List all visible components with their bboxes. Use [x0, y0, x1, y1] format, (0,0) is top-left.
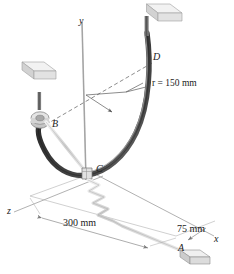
collar-b — [31, 112, 49, 128]
mechanics-figure: y x z B C D A r = 150 mm 300 mm 75 mm — [0, 0, 234, 274]
spring-ca — [88, 180, 180, 250]
radius-arrows — [86, 83, 143, 112]
x-axis-label: x — [214, 234, 218, 244]
point-c-label: C — [96, 164, 103, 174]
support-post-b — [38, 92, 42, 110]
ring-c — [82, 168, 92, 179]
point-d-label: D — [153, 52, 160, 62]
support-block-d — [147, 4, 183, 21]
support-block-b — [22, 62, 56, 79]
dimension-75-label: 75 mm — [177, 224, 205, 234]
radius-dimension-label: r = 150 mm — [152, 79, 197, 89]
support-post-d — [145, 16, 149, 36]
point-b-label: B — [52, 119, 58, 129]
dimension-300-label: 300 mm — [63, 218, 96, 228]
z-axis-label: z — [7, 206, 11, 216]
y-axis-label: y — [79, 16, 83, 26]
y-axis-line — [82, 22, 86, 180]
base-block-a — [180, 250, 210, 264]
curved-rod — [38, 33, 149, 176]
point-a-label: A — [178, 243, 184, 253]
